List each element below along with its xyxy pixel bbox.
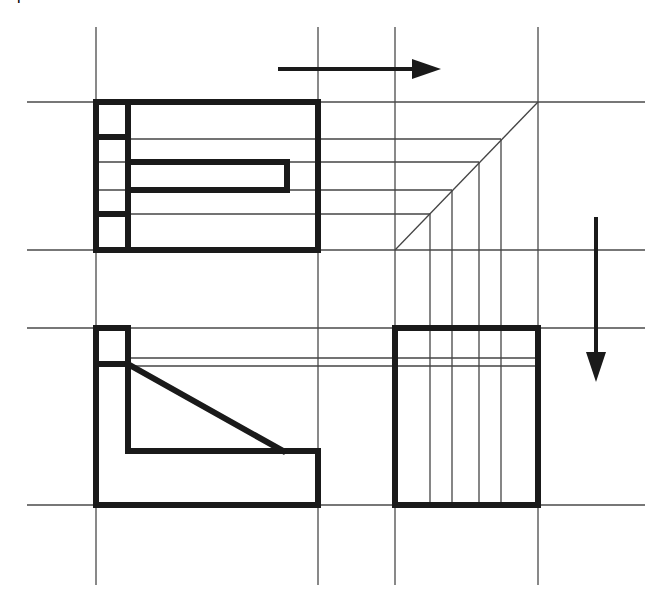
arrow-right [278,59,441,79]
arrow-right-head [412,59,441,79]
arrow-down-head [586,352,606,382]
top-view-slot [128,162,287,190]
side-view-label: Side view [0,0,69,3]
arrow-down [586,217,606,382]
reference-grid [27,27,645,585]
miter-line [395,102,538,250]
front-view-rib-edge [128,364,283,451]
front-view-outline [96,328,318,505]
side-view-outline [395,328,538,505]
projection-diagram: Orthographic projection: top view, front… [0,0,665,605]
top-view: Top view [0,0,318,250]
